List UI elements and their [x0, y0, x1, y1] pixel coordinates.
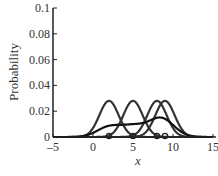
component-curve: [53, 101, 213, 137]
y-tick-label: 0.06: [29, 53, 50, 67]
component-curve: [53, 101, 213, 137]
component-curve: [53, 101, 213, 137]
y-tick-label: 0.04: [29, 78, 50, 92]
x-axis-label: x: [134, 153, 141, 168]
y-tick-label: 0.1: [35, 1, 50, 15]
x-tick-label: 15: [207, 140, 218, 154]
y-tick-label: 0.02: [29, 104, 50, 118]
x-tick-label: 10: [167, 140, 179, 154]
x-tick-label: 5: [130, 140, 136, 154]
y-tick-label: 0.08: [29, 27, 50, 41]
y-axis-label: Probability: [6, 43, 21, 101]
component-curve: [53, 101, 213, 137]
plot-curves: [53, 101, 213, 137]
chart: 00.020.040.060.080.1 –5051015 x Probabil…: [0, 0, 218, 176]
x-tick-label: –5: [46, 140, 59, 154]
x-tick-label: 0: [90, 140, 96, 154]
